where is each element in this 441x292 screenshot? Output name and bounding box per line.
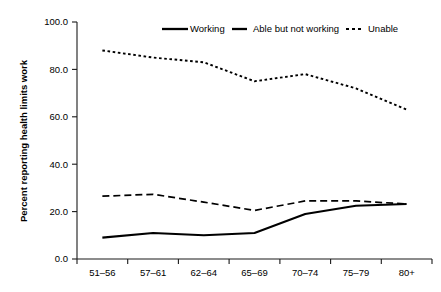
y-axis-ticks: 0.0 20.0 40.0 60.0 80.0 100.0 — [44, 16, 77, 264]
series-line-working — [102, 204, 406, 238]
x-tick-label: 57–61 — [140, 267, 166, 278]
x-tick-label: 65–69 — [241, 267, 267, 278]
chart-figure: Percent reporting health limits work 0.0… — [0, 0, 441, 292]
x-tick-label: 70–74 — [292, 267, 318, 278]
line-chart: Percent reporting health limits work 0.0… — [0, 0, 441, 292]
y-tick-label: 0.0 — [55, 253, 68, 264]
legend-label-working: Working — [190, 23, 225, 34]
y-tick-label: 40.0 — [50, 159, 69, 170]
x-tick-label: 62–64 — [191, 267, 217, 278]
y-tick-label: 20.0 — [50, 206, 69, 217]
x-tick-label: 51–56 — [89, 267, 115, 278]
series-line-able-but-not-working — [102, 194, 406, 210]
y-tick-label: 100.0 — [44, 16, 68, 27]
y-tick-label: 80.0 — [50, 64, 69, 75]
x-tick-label: 80+ — [399, 267, 416, 278]
legend-label-unable: Unable — [368, 23, 398, 34]
y-tick-label: 60.0 — [50, 111, 69, 122]
legend-label-able-but-not-working: Able but not working — [253, 23, 339, 34]
series-line-unable — [102, 50, 406, 109]
x-tick-label: 75–79 — [343, 267, 369, 278]
x-axis-ticks: 51–56 57–61 62–64 65–69 70–74 75–79 80+ — [77, 259, 432, 278]
y-axis-title: Percent reporting health limits work — [18, 59, 29, 222]
chart-legend: Working Able but not working Unable — [162, 23, 398, 34]
